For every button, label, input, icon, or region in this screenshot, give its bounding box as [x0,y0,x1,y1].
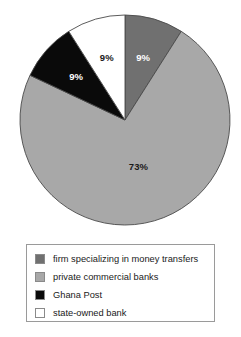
pie-slice-value-label: 9% [100,52,114,63]
legend-item-firm-money-transfers: firm specializing in money transfers [27,250,214,268]
pie-chart-figure: 9%73%9%9% firm specializing in money tra… [0,0,241,337]
pie-slice-group [20,15,230,225]
legend-label-state-owned-bank: state-owned bank [53,308,126,319]
pie-chart-svg: 9%73%9%9% [0,0,241,238]
pie-slice-value-label: 9% [69,71,83,82]
pie-slice-value-label: 73% [129,161,149,172]
legend-swatch-state-owned-bank [35,308,45,318]
legend-label-private-commercial-banks: private commercial banks [53,272,158,283]
legend-item-ghana-post: Ghana Post [27,286,214,304]
legend-swatch-private-commercial-banks [35,272,45,282]
pie-chart-plot-area: 9%73%9%9% [0,0,241,238]
chart-legend: firm specializing in money transfers pri… [26,244,215,322]
legend-item-private-commercial-banks: private commercial banks [27,268,214,286]
pie-slice-value-label: 9% [136,52,150,63]
legend-item-state-owned-bank: state-owned bank [27,304,214,322]
legend-swatch-firm-money-transfers [35,254,45,264]
legend-label-firm-money-transfers: firm specializing in money transfers [53,254,198,265]
legend-swatch-ghana-post [35,290,45,300]
legend-label-ghana-post: Ghana Post [53,290,102,301]
